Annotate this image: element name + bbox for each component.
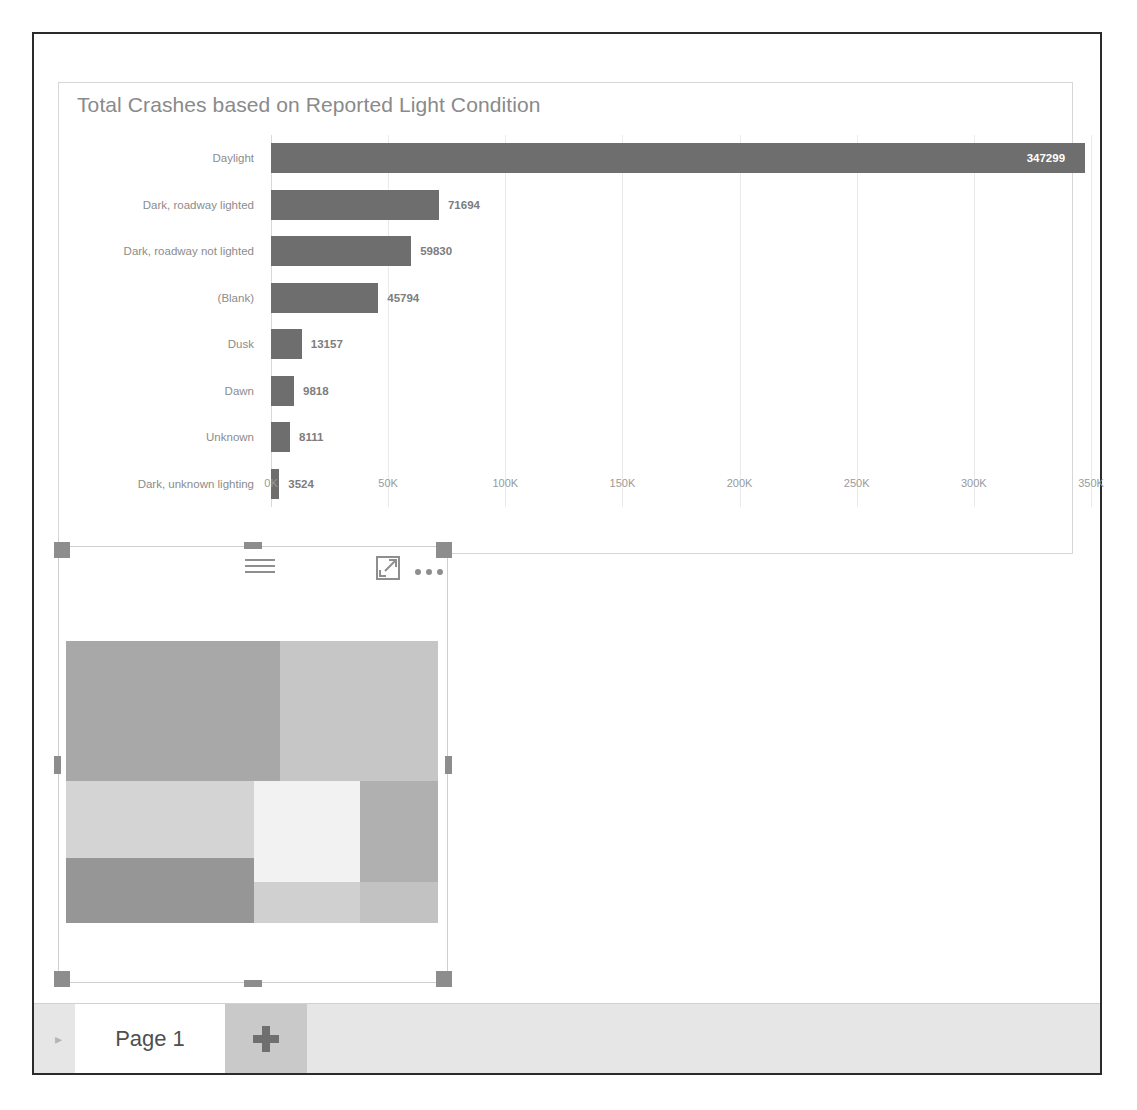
treemap-tile-2[interactable]	[280, 641, 438, 781]
bar-chart-category-axis: DaylightDark, roadway lightedDark, roadw…	[59, 135, 262, 507]
resize-handle-left-middle[interactable]	[54, 756, 61, 774]
report-canvas-frame: Total Crashes based on Reported Light Co…	[32, 32, 1102, 1075]
x-tick-label: 350K	[1078, 477, 1104, 489]
bar-chart-visual[interactable]: Total Crashes based on Reported Light Co…	[58, 82, 1073, 554]
page-tab-bar: ▸ Page 1	[34, 1003, 1100, 1073]
x-tick-label: 0K	[264, 477, 277, 489]
bar-6[interactable]	[271, 376, 294, 406]
bar-4[interactable]	[271, 283, 378, 313]
resize-handle-top-left[interactable]	[54, 542, 70, 558]
bar-5[interactable]	[271, 329, 302, 359]
category-label: Daylight	[212, 152, 254, 164]
report-canvas[interactable]: Total Crashes based on Reported Light Co…	[34, 34, 1100, 1073]
page-nav-next-arrow[interactable]: ▸	[42, 1004, 75, 1073]
bar-1[interactable]	[271, 143, 1085, 173]
category-label: Unknown	[206, 431, 254, 443]
resize-handle-right-middle[interactable]	[445, 756, 452, 774]
category-label: Dark, unknown lighting	[138, 478, 254, 490]
bar-row[interactable]: 8111	[271, 422, 1091, 452]
treemap-tile-7[interactable]	[254, 882, 360, 923]
bar-row[interactable]: 71694	[271, 190, 1091, 220]
x-tick-label: 250K	[844, 477, 870, 489]
bar-2[interactable]	[271, 190, 439, 220]
focus-mode-icon[interactable]	[375, 555, 401, 581]
category-label: Dawn	[225, 385, 254, 397]
resize-handle-top-center[interactable]	[244, 542, 262, 549]
bar-value-label: 71694	[448, 199, 480, 211]
resize-handle-bottom-center[interactable]	[244, 980, 262, 987]
treemap-tile-1[interactable]	[66, 641, 280, 781]
category-label: Dark, roadway lighted	[143, 199, 254, 211]
bar-3[interactable]	[271, 236, 411, 266]
treemap-tile-3[interactable]	[66, 781, 254, 859]
bar-value-label: 59830	[420, 245, 452, 257]
x-tick-label: 50K	[378, 477, 398, 489]
page-tab-page-1[interactable]: Page 1	[75, 1004, 225, 1073]
x-tick-label: 100K	[492, 477, 518, 489]
bar-value-label: 45794	[387, 292, 419, 304]
treemap-visual[interactable]	[58, 546, 448, 983]
filter-icon[interactable]	[245, 555, 275, 577]
category-label: Dark, roadway not lighted	[124, 245, 254, 257]
bar-value-label: 347299	[1027, 152, 1065, 164]
x-tick-label: 150K	[610, 477, 636, 489]
bar-row[interactable]: 59830	[271, 236, 1091, 266]
treemap-tile-4[interactable]	[254, 781, 360, 883]
add-page-button[interactable]	[225, 1004, 307, 1073]
treemap-tile-5[interactable]	[360, 781, 438, 883]
treemap-tile-6[interactable]	[66, 858, 254, 923]
more-options-icon[interactable]	[415, 555, 445, 583]
bar-chart-plot-area[interactable]: 34729971694598304579413157981881113524	[271, 135, 1091, 507]
category-label: Dusk	[228, 338, 254, 350]
bar-row[interactable]: 13157	[271, 329, 1091, 359]
bar-7[interactable]	[271, 422, 290, 452]
bar-value-label: 9818	[303, 385, 329, 397]
gridline	[1091, 135, 1092, 507]
treemap-plot-area[interactable]	[66, 641, 438, 923]
bar-row[interactable]: 347299	[271, 143, 1091, 173]
resize-handle-top-right[interactable]	[436, 542, 452, 558]
treemap-visual-header	[59, 547, 447, 591]
bar-value-label: 13157	[311, 338, 343, 350]
treemap-tile-8[interactable]	[360, 882, 438, 923]
resize-handle-bottom-right[interactable]	[436, 971, 452, 987]
bar-value-label: 8111	[299, 431, 323, 443]
plus-icon	[253, 1026, 279, 1052]
category-label: (Blank)	[218, 292, 254, 304]
bar-row[interactable]: 45794	[271, 283, 1091, 313]
bar-row[interactable]: 9818	[271, 376, 1091, 406]
x-tick-label: 200K	[727, 477, 753, 489]
bar-chart-value-axis: 0K50K100K150K200K250K300K350K	[271, 469, 1091, 499]
x-tick-label: 300K	[961, 477, 987, 489]
bar-chart-title: Total Crashes based on Reported Light Co…	[77, 93, 541, 117]
resize-handle-bottom-left[interactable]	[54, 971, 70, 987]
